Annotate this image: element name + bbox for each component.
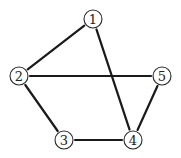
edges-group — [25, 26, 157, 140]
node-5: 5 — [153, 67, 171, 85]
edge-1-2 — [28, 26, 85, 70]
node-label: 3 — [60, 133, 68, 148]
node-label: 4 — [129, 133, 137, 148]
edge-1-4 — [96, 29, 129, 129]
node-label: 1 — [89, 12, 97, 27]
node-label: 2 — [15, 69, 23, 84]
edge-4-5 — [138, 86, 158, 130]
node-3: 3 — [55, 131, 73, 149]
nodes-group: 12345 — [10, 10, 171, 149]
edge-2-3 — [25, 85, 57, 131]
node-4: 4 — [124, 131, 142, 149]
node-1: 1 — [84, 10, 102, 28]
node-label: 5 — [158, 69, 166, 84]
node-2: 2 — [10, 67, 28, 85]
graph-diagram: 12345 — [0, 0, 181, 158]
